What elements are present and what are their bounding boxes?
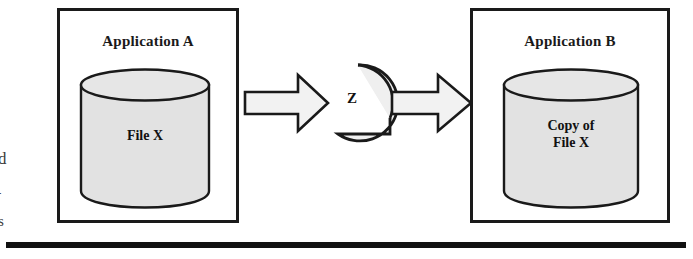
process-flow-group (240, 56, 476, 168)
horizontal-rule (6, 242, 686, 248)
in-arrow-icon (245, 75, 328, 131)
copy-of-file-x-cylinder-label: Copy of File X (501, 117, 641, 151)
file-x-cylinder: File X (78, 67, 212, 209)
application-b-box: Application B Copy of File X (470, 8, 670, 223)
diagram-canvas: Application A File X Z Application B Cop… (0, 0, 693, 259)
file-x-cylinder-label: File X (78, 127, 212, 144)
margin-glyph-3: s (0, 214, 4, 229)
application-b-title: Application B (473, 33, 667, 50)
margin-glyph-1: d (0, 150, 7, 167)
out-arrow-icon (392, 75, 471, 131)
application-a-title: Application A (60, 33, 236, 50)
copy-of-file-x-cylinder: Copy of File X (501, 67, 641, 209)
process-z-label: Z (326, 90, 378, 107)
margin-glyph-2: - (0, 186, 1, 199)
application-a-box: Application A File X (57, 8, 239, 223)
